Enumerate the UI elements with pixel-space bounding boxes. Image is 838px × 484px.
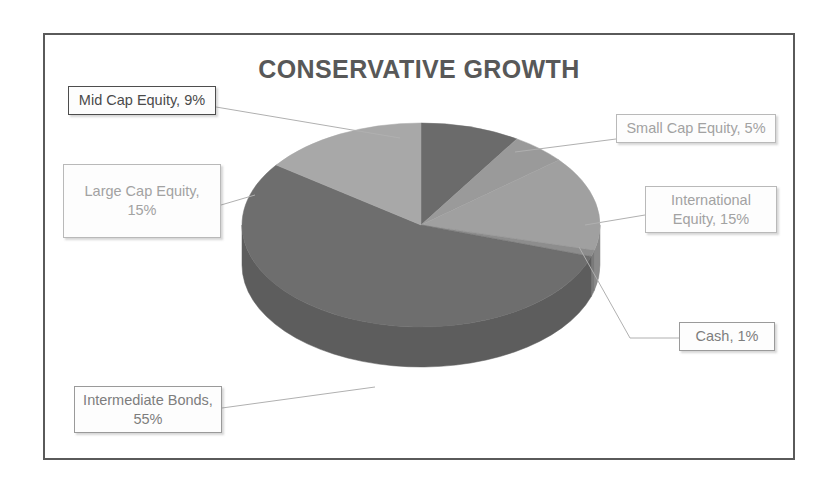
label-international-equity: International Equity, 15% — [645, 186, 777, 233]
label-intermediate-bonds: Intermediate Bonds, 55% — [74, 386, 222, 433]
label-cash: Cash, 1% — [679, 322, 775, 351]
label-mid-cap-equity: Mid Cap Equity, 9% — [68, 86, 216, 115]
label-large-cap-equity: Large Cap Equity, 15% — [63, 164, 221, 238]
pie-svg — [221, 87, 621, 417]
pie-graphic — [221, 87, 621, 417]
label-small-cap-equity: Small Cap Equity, 5% — [616, 114, 776, 143]
pie-slice-side-cash — [591, 250, 594, 296]
chart-title: CONSERVATIVE GROWTH — [45, 55, 793, 84]
label-large-cap-equity-text: Large Cap Equity, 15% — [70, 182, 214, 219]
chart-frame: CONSERVATIVE GROWTH Mid Cap Equity, 9% L… — [43, 33, 795, 460]
pie-chart — [221, 87, 621, 417]
